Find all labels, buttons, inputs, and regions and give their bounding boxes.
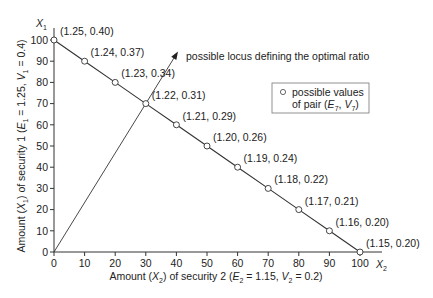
- optimal-ratio-chart: 0102030405060708090100 01020304050607080…: [0, 0, 433, 298]
- legend: possible values of pair (E7, V7): [272, 83, 369, 113]
- y-tick-label: 100: [30, 34, 48, 46]
- y-tick-label: 70: [36, 97, 48, 109]
- locus-label: possible locus defining the optimal rati…: [186, 50, 369, 62]
- y-tick-label: 50: [36, 140, 48, 152]
- x-axis-title: Amount (X2) of security 2 (E2 = 1.15, V2…: [109, 270, 322, 284]
- y-tick-label: 90: [36, 55, 48, 67]
- open-circle-marker-icon: [296, 207, 302, 213]
- open-circle-marker-icon: [235, 164, 241, 170]
- x-tick-label: 90: [324, 257, 336, 269]
- y-tick-label: 0: [42, 246, 48, 258]
- open-circle-marker-icon: [265, 185, 271, 191]
- locus-arrow-line: [54, 57, 175, 252]
- point-label: (1.23, 0.34): [121, 67, 175, 79]
- y-tick-label: 40: [36, 161, 48, 173]
- legend-line1: possible values: [292, 86, 364, 98]
- y-tick-label: 60: [36, 119, 48, 131]
- open-circle-marker-icon: [82, 58, 88, 64]
- point-label: (1.18, 0.22): [274, 173, 328, 185]
- arrowhead-icon: [171, 52, 178, 60]
- point-label: (1.21, 0.29): [182, 110, 236, 122]
- open-circle-marker-icon: [357, 249, 363, 255]
- point-label: (1.20, 0.26): [213, 131, 267, 143]
- open-circle-marker-icon: [280, 89, 285, 94]
- x-tick-label: 60: [232, 257, 244, 269]
- y-tick-label: 30: [36, 182, 48, 194]
- open-circle-marker-icon: [326, 228, 332, 234]
- open-circle-marker-icon: [51, 37, 57, 43]
- point-label: (1.16, 0.20): [335, 216, 389, 228]
- point-label: (1.24, 0.37): [91, 46, 145, 58]
- x-tick-label: 50: [201, 257, 213, 269]
- x-tick-label: 70: [262, 257, 274, 269]
- x-tick-label: 10: [79, 257, 91, 269]
- point-label: (1.17, 0.21): [305, 195, 359, 207]
- open-circle-marker-icon: [143, 101, 149, 107]
- y-axis-symbol: X1: [35, 17, 47, 31]
- x-ticks: 0102030405060708090100: [51, 252, 369, 269]
- point-label: (1.22, 0.31): [152, 89, 206, 101]
- open-circle-marker-icon: [173, 122, 179, 128]
- y-tick-label: 80: [36, 76, 48, 88]
- x-axis-symbol: X2: [375, 258, 387, 272]
- y-axis-title: Amount (X1) of security 1 (E1 = 1.25, V1…: [15, 39, 29, 252]
- open-circle-marker-icon: [204, 143, 210, 149]
- x-tick-label: 100: [351, 257, 369, 269]
- x-tick-label: 20: [109, 257, 121, 269]
- x-tick-label: 80: [293, 257, 305, 269]
- y-tick-label: 10: [36, 225, 48, 237]
- point-label: (1.15, 0.20): [366, 237, 420, 249]
- y-tick-label: 20: [36, 203, 48, 215]
- x-tick-label: 30: [140, 257, 152, 269]
- point-label: (1.19, 0.24): [244, 152, 298, 164]
- open-circle-marker-icon: [112, 79, 118, 85]
- x-tick-label: 40: [171, 257, 183, 269]
- point-label: (1.25, 0.40): [60, 25, 114, 37]
- legend-line2: of pair (E7, V7): [292, 98, 359, 112]
- y-ticks: 0102030405060708090100: [30, 34, 54, 258]
- x-tick-label: 0: [51, 257, 57, 269]
